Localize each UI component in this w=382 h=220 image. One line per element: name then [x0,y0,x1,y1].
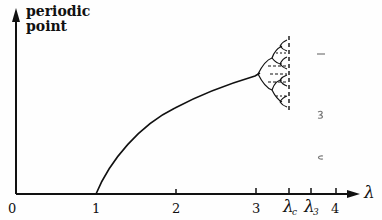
bifurcation-cascade [258,40,287,107]
svg-text:3: 3 [313,207,319,217]
y-axis-label: periodic [26,3,90,19]
tick-label-4: 4 [331,201,339,216]
tick-label-0: 0 [8,201,16,216]
tick-label-1: 1 [92,201,100,216]
x-axis-label: λ [363,182,375,202]
bleed-through-marks [317,54,325,159]
tick-label-2: 2 [172,201,180,216]
tick-label-lambda-c: λ c [282,196,297,217]
bifurcation-diagram: periodic point λ 0 1 2 3 λ c λ 3 4 [0,0,382,220]
y-axis-label-2: point [26,18,68,34]
fixed-point-curve [96,73,260,194]
y-axis [12,8,20,194]
svg-text:c: c [292,207,297,217]
tick-label-lambda-3: λ 3 [303,196,319,217]
tick-label-3: 3 [252,201,260,216]
